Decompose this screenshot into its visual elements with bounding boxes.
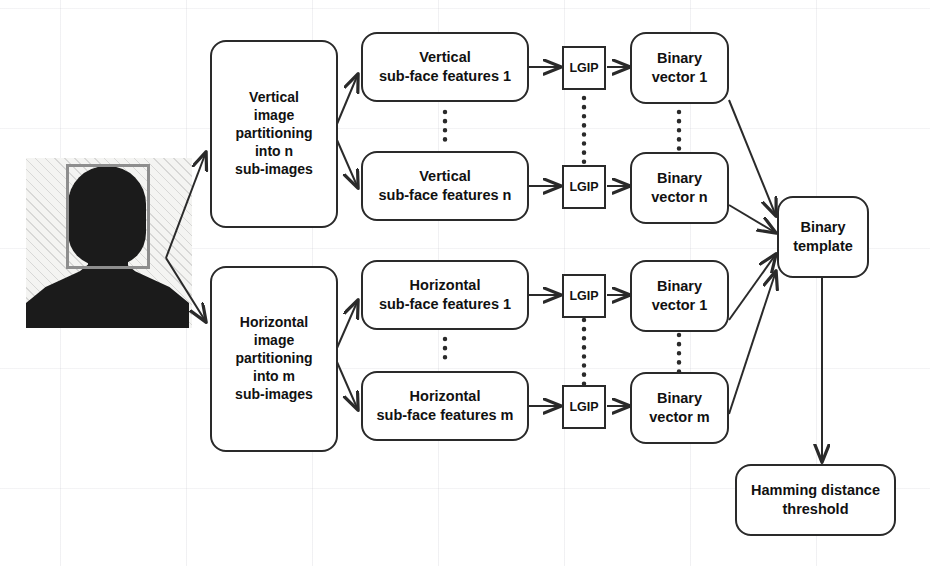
node-vertical-features-n[interactable]: Verticalsub-face features n [361,151,529,221]
node-horizontal-partitioning[interactable]: Horizontalimagepartitioninginto msub-ima… [210,266,338,452]
node-horizontal-features-m[interactable]: Horizontalsub-face features m [361,371,529,441]
edge-vector1h-to-template [729,254,776,320]
edge-vector1v-to-template [729,100,776,216]
node-lgip-3[interactable]: LGIP [562,274,606,318]
node-horizontal-features-1-label: Horizontalsub-face features 1 [373,276,517,313]
edge-vpart-to-vfeat1 [337,74,358,124]
edge-vectorn-to-template [729,205,776,233]
node-vertical-partitioning[interactable]: Verticalimagepartitioninginto nsub-image… [210,40,338,228]
node-lgip-2-label: LGIP [563,179,604,195]
node-vertical-partitioning-label: Verticalimagepartitioninginto nsub-image… [229,89,319,179]
node-lgip-4[interactable]: LGIP [562,385,606,429]
edge-hpart-to-hfeat1 [337,300,358,348]
node-lgip-1-label: LGIP [563,60,604,76]
node-binary-vector-m-label: Binaryvector m [643,389,715,426]
node-lgip-2[interactable]: LGIP [562,165,606,209]
node-binary-vector-1-vertical-label: Binaryvector 1 [646,49,714,86]
node-binary-vector-n-label: Binaryvector n [645,169,713,206]
diagram-canvas: Verticalimagepartitioninginto nsub-image… [0,0,930,566]
node-binary-template-label: Binarytemplate [787,218,859,255]
node-lgip-1[interactable]: LGIP [562,46,606,90]
edge-vectorm-to-template [729,271,776,414]
node-vertical-features-1-label: Verticalsub-face features 1 [373,48,517,85]
node-binary-vector-n[interactable]: Binaryvector n [630,152,729,224]
node-binary-vector-1-horizontal[interactable]: Binaryvector 1 [630,260,729,332]
node-vertical-features-1[interactable]: Verticalsub-face features 1 [361,32,529,102]
face-photo-input [26,158,192,328]
node-hamming-threshold-label: Hamming distancethreshold [745,481,886,518]
node-binary-vector-m[interactable]: Binaryvector m [630,372,729,444]
node-binary-template[interactable]: Binarytemplate [777,196,869,278]
edge-vpart-to-vfeatn [337,140,358,188]
node-binary-vector-1-horizontal-label: Binaryvector 1 [646,277,714,314]
node-hamming-threshold[interactable]: Hamming distancethreshold [735,464,896,536]
node-horizontal-partitioning-label: Horizontalimagepartitioninginto msub-ima… [229,314,319,404]
node-binary-vector-1-vertical[interactable]: Binaryvector 1 [630,32,729,104]
node-vertical-features-n-label: Verticalsub-face features n [373,167,518,204]
node-lgip-3-label: LGIP [563,288,604,304]
node-horizontal-features-m-label: Horizontalsub-face features m [371,387,520,424]
face-detection-rectangle [66,164,150,269]
node-lgip-4-label: LGIP [563,399,604,415]
node-horizontal-features-1[interactable]: Horizontalsub-face features 1 [361,260,529,330]
edge-hpart-to-hfeatm [337,362,358,410]
